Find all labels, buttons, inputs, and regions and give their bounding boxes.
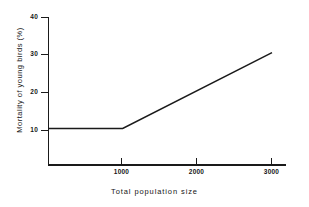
x-axis-title: Total population size bbox=[0, 187, 309, 196]
x-tick-label-1000: 1000 bbox=[104, 168, 139, 175]
y-axis-title: Mortality of young birds (%) bbox=[15, 27, 24, 132]
chart-plot-area bbox=[0, 0, 309, 207]
x-tick-label-3000: 3000 bbox=[254, 168, 289, 175]
x-tick-label-2000: 2000 bbox=[179, 168, 214, 175]
y-axis-title-container: Mortality of young birds (%) bbox=[10, 0, 28, 160]
chart-figure: 40 30 20 10 1000 2000 3000 Mortality of … bbox=[0, 0, 309, 207]
data-line-mortality bbox=[48, 53, 272, 129]
